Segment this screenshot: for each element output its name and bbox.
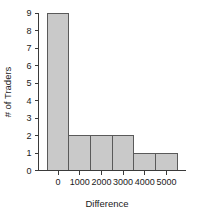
x-tick-labels: 010002000300040005000 [56,177,177,187]
histogram-bar [112,136,134,171]
histogram-bar [69,136,91,171]
y-tick-label: 2 [26,131,31,141]
chart-canvas: 010002000300040005000 0123456789 Differe… [0,0,199,216]
x-tick-label: 0 [56,177,61,187]
y-tick-label: 9 [26,8,31,18]
y-axis-title: # of Traders [2,66,13,117]
x-tick-label: 3000 [113,177,133,187]
y-tick-label: 3 [26,113,31,123]
y-tick-label: 8 [26,26,31,36]
x-axis-title: Difference [85,198,128,209]
histogram-bar [134,153,156,171]
y-tick-label: 7 [26,43,31,53]
histogram-chart: 010002000300040005000 0123456789 Differe… [0,0,199,216]
y-tick-label: 1 [26,148,31,158]
x-tick-label: 5000 [156,177,176,187]
x-tick-label: 2000 [91,177,111,187]
x-tick-label: 4000 [135,177,155,187]
histogram-bar [156,153,178,171]
y-tick-label: 0 [26,166,31,176]
histogram-bar [91,136,113,171]
x-tick-label: 1000 [70,177,90,187]
histogram-bar [47,13,69,171]
y-tick-label: 5 [26,78,31,88]
y-tick-label: 4 [26,96,31,106]
y-tick-label: 6 [26,61,31,71]
